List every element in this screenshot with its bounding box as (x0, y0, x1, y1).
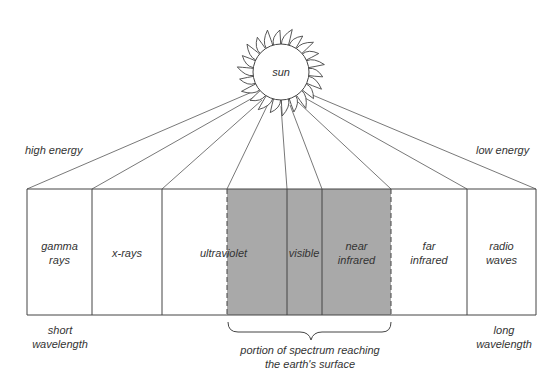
short-wavelength-label: shortwavelength (20, 323, 100, 351)
band-near-infrared: nearinfrared (322, 239, 391, 267)
band-ultraviolet: ultraviolet (162, 246, 287, 260)
low-energy-label: low energy (476, 143, 529, 157)
long-wavelength-label: longwavelength (464, 323, 544, 351)
high-energy-label: high energy (25, 143, 83, 157)
band-x-rays: x-rays (92, 246, 162, 260)
band-far-infrared: farinfrared (391, 239, 467, 267)
sun-label: sun (266, 65, 296, 79)
band-visible: visible (285, 246, 323, 260)
brace-caption: portion of spectrum reachingthe earth's … (220, 343, 400, 371)
band-gamma-rays: gammarays (27, 239, 92, 267)
band-radio-waves: radiowaves (467, 239, 536, 267)
brace (228, 322, 391, 340)
